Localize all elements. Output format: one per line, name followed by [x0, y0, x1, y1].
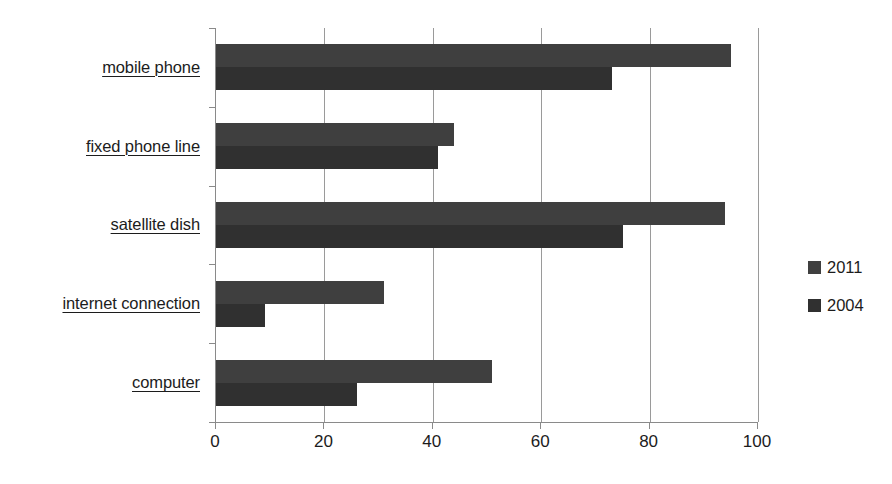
- bar-2011-satellite-dish[interactable]: [216, 202, 725, 225]
- bar-series-container: [216, 28, 758, 422]
- bar-2004-internet-connection[interactable]: [216, 304, 265, 327]
- bar-group: [216, 343, 758, 422]
- bar-2011-internet-connection[interactable]: [216, 281, 384, 304]
- y-axis-tick: [209, 107, 216, 108]
- plot-area: [215, 28, 758, 422]
- x-axis-tick: [757, 422, 758, 429]
- x-axis-tick: [323, 422, 324, 429]
- x-axis-tick: [649, 422, 650, 429]
- legend-swatch-2011: [808, 261, 821, 274]
- x-axis-tick-labels: 020406080100: [215, 432, 757, 462]
- x-axis-line: [215, 422, 758, 423]
- category-axis-cell: mobile phone: [0, 28, 212, 107]
- legend-swatch-2004: [808, 299, 821, 312]
- legend-label-2004: 2004: [827, 296, 864, 315]
- bar-2004-mobile-phone[interactable]: [216, 67, 612, 90]
- bar-group: [216, 28, 758, 107]
- x-axis-tick-label: 60: [531, 432, 550, 452]
- y-axis-tick: [209, 28, 216, 29]
- x-axis-tick-label: 0: [210, 432, 219, 452]
- legend-item-2004[interactable]: 2004: [808, 296, 864, 315]
- x-axis-tick-label: 100: [743, 432, 771, 452]
- bar-2011-fixed-phone-line[interactable]: [216, 123, 454, 146]
- bar-2011-mobile-phone[interactable]: [216, 44, 731, 67]
- legend-item-2011[interactable]: 2011: [808, 258, 864, 277]
- chart-legend: 2011 2004: [808, 258, 864, 315]
- y-axis-tick: [209, 264, 216, 265]
- category-label-mobile-phone: mobile phone: [102, 58, 200, 77]
- y-axis-tick: [209, 343, 216, 344]
- x-axis-tick: [540, 422, 541, 429]
- bar-group: [216, 186, 758, 265]
- bar-2004-computer[interactable]: [216, 383, 357, 406]
- x-axis-tick: [215, 422, 216, 429]
- bar-2004-fixed-phone-line[interactable]: [216, 146, 438, 169]
- category-label-computer: computer: [132, 373, 200, 392]
- category-label-fixed-phone-line: fixed phone line: [86, 137, 200, 156]
- bar-group: [216, 264, 758, 343]
- bar-2004-satellite-dish[interactable]: [216, 225, 623, 248]
- category-label-internet-connection: internet connection: [62, 294, 200, 313]
- category-axis-cell: internet connection: [0, 264, 212, 343]
- category-axis-cell: fixed phone line: [0, 107, 212, 186]
- x-axis-tick-label: 20: [314, 432, 333, 452]
- gridline: [758, 28, 759, 422]
- bar-group: [216, 107, 758, 186]
- legend-label-2011: 2011: [827, 258, 862, 277]
- y-axis-tick: [209, 186, 216, 187]
- x-axis-tick-label: 40: [422, 432, 441, 452]
- x-axis-tick: [432, 422, 433, 429]
- x-axis-tick-label: 80: [639, 432, 658, 452]
- category-label-satellite-dish: satellite dish: [111, 215, 200, 234]
- category-axis-cell: satellite dish: [0, 186, 212, 265]
- bar-2011-computer[interactable]: [216, 360, 492, 383]
- category-axis: mobile phone fixed phone line satellite …: [0, 28, 212, 422]
- category-axis-cell: computer: [0, 343, 212, 422]
- bar-chart: mobile phone fixed phone line satellite …: [0, 0, 892, 484]
